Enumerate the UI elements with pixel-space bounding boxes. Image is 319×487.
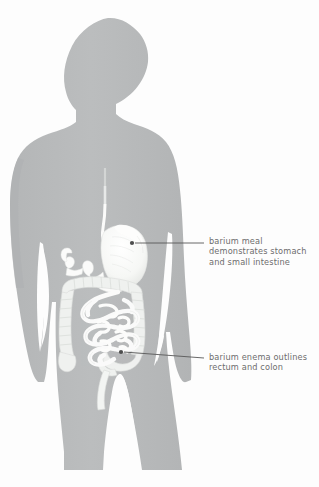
barium-study-figure: barium meal demonstrates stomach and sma… (0, 0, 319, 487)
annotation-barium-enema-line-2: rectum and colon (209, 362, 307, 372)
annotation-barium-enema-line-1: barium enema outlines (209, 352, 307, 362)
marker-dot-rectum (119, 350, 123, 354)
annotation-barium-meal-line-2: demonstrates stomach (209, 246, 307, 256)
annotation-barium-enema: barium enema outlines rectum and colon (209, 352, 307, 373)
marker-dot-stomach (130, 241, 134, 245)
annotation-barium-meal-line-3: and small intestine (209, 257, 307, 267)
annotation-barium-meal: barium meal demonstrates stomach and sma… (209, 236, 307, 267)
annotation-barium-meal-line-1: barium meal (209, 236, 307, 246)
